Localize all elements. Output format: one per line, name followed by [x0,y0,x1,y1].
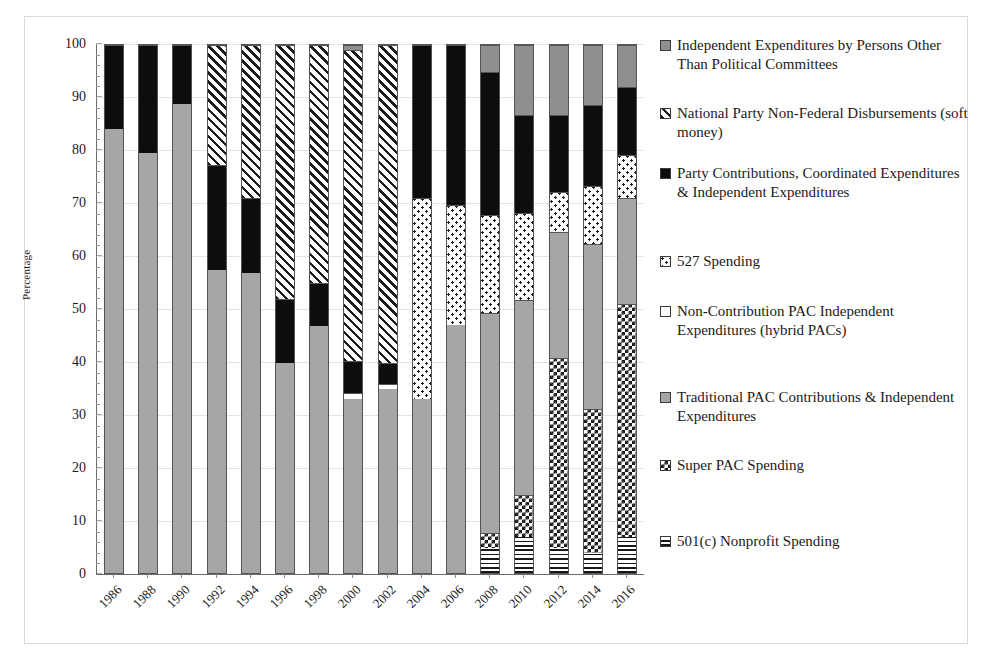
segment-divider [413,198,431,199]
y-tick-label: 10 [72,514,86,528]
bar-segment [480,44,500,72]
legend-swatch-icon [660,306,671,317]
bar-segment [343,361,363,393]
segment-divider [276,299,294,300]
bar-2016[interactable] [617,44,637,574]
bar-segment [104,129,124,574]
bar-2012[interactable] [549,44,569,574]
bar-1992[interactable] [207,44,227,574]
y-tick-label: 60 [72,249,86,263]
segment-divider [618,304,636,305]
segment-divider [515,495,533,496]
x-tick-mark [387,574,388,578]
bar-segment [480,533,500,548]
legend-item[interactable]: Independent Expenditures by Persons Othe… [660,36,970,74]
y-tick-label: 70 [72,196,86,210]
bar-1990[interactable] [172,44,192,574]
x-tick-label-2000: 2000 [335,582,365,612]
segment-divider [515,213,533,214]
x-tick-label-2004: 2004 [403,582,433,612]
bar-segment [617,155,637,197]
legend-swatch-icon [660,108,671,119]
bar-segment [104,44,124,129]
x-tick-label-2012: 2012 [540,582,570,612]
x-tick-mark [250,574,251,578]
bar-1996[interactable] [275,44,295,574]
segment-divider [481,533,499,534]
bar-segment [514,213,534,300]
bar-2004[interactable] [412,44,432,574]
bar-1988[interactable] [138,44,158,574]
x-tick-label-2006: 2006 [438,582,468,612]
segment-divider [584,409,602,410]
x-tick-label-1994: 1994 [232,582,262,612]
segment-divider [344,50,362,51]
segment-divider [344,393,362,394]
segment-divider [618,198,636,199]
legend-label: 501(c) Nonprofit Spending [677,532,839,551]
segment-divider [550,115,568,116]
legend-label: Super PAC Spending [677,456,804,475]
bar-2010[interactable] [514,44,534,574]
chart-figure: Percentage 0102030405060708090100 Indepe… [0,0,992,663]
segment-divider [208,45,226,46]
segment-divider [481,313,499,314]
legend-item[interactable]: Party Contributions, Coordinated Expendi… [660,164,970,202]
segment-divider [550,358,568,359]
x-tick-label-1996: 1996 [267,582,297,612]
legend-item[interactable]: National Party Non-Federal Disbursements… [660,104,970,142]
bar-2008[interactable] [480,44,500,574]
x-tick-mark [523,574,524,578]
segment-divider [310,283,328,284]
segment-divider [413,45,431,46]
legend-item[interactable]: 527 Spending [660,252,970,271]
legend-label: Independent Expenditures by Persons Othe… [677,36,970,74]
bar-2000[interactable] [343,44,363,574]
bar-segment [549,115,569,192]
y-axis-ticks: 0102030405060708090100 [52,36,96,584]
segment-divider [515,115,533,116]
bar-segment [446,205,466,325]
legend-item[interactable]: Super PAC Spending [660,456,970,475]
bar-segment [480,548,500,575]
legend-item[interactable]: 501(c) Nonprofit Spending [660,532,970,551]
legend-swatch-icon [660,256,671,267]
x-tick-mark [455,574,456,578]
bar-1986[interactable] [104,44,124,574]
bar-segment [412,44,432,198]
segment-divider [618,45,636,46]
plot-area [97,44,644,574]
bar-segment [138,153,158,574]
y-axis-label: Percentage [20,250,32,300]
bar-segment [480,72,500,215]
segment-divider [344,361,362,362]
segment-divider [618,87,636,88]
segment-divider [481,215,499,216]
bar-segment [378,384,398,388]
bar-segment [583,409,603,553]
bar-segment [617,304,637,537]
segment-divider [447,45,465,46]
bar-segment [583,44,603,105]
segment-divider [105,45,123,46]
legend-item[interactable]: Non-Contribution PAC Independent Expendi… [660,302,970,340]
bar-2006[interactable] [446,44,466,574]
bar-segment [275,363,295,574]
x-tick-mark [318,574,319,578]
bar-segment [241,44,261,198]
legend-item[interactable]: Traditional PAC Contributions & Independ… [660,388,970,426]
x-tick-label-1998: 1998 [301,582,331,612]
bar-1994[interactable] [241,44,261,574]
segment-divider [447,205,465,206]
segment-divider [515,300,533,301]
segment-divider [550,192,568,193]
bar-segment [549,192,569,232]
y-tick-label: 40 [72,355,86,369]
bar-segment [309,44,329,283]
bar-2002[interactable] [378,44,398,574]
y-tick-label: 50 [72,302,86,316]
bar-segment [309,326,329,574]
bar-1998[interactable] [309,44,329,574]
bar-2014[interactable] [583,44,603,574]
bar-segment [480,313,500,533]
